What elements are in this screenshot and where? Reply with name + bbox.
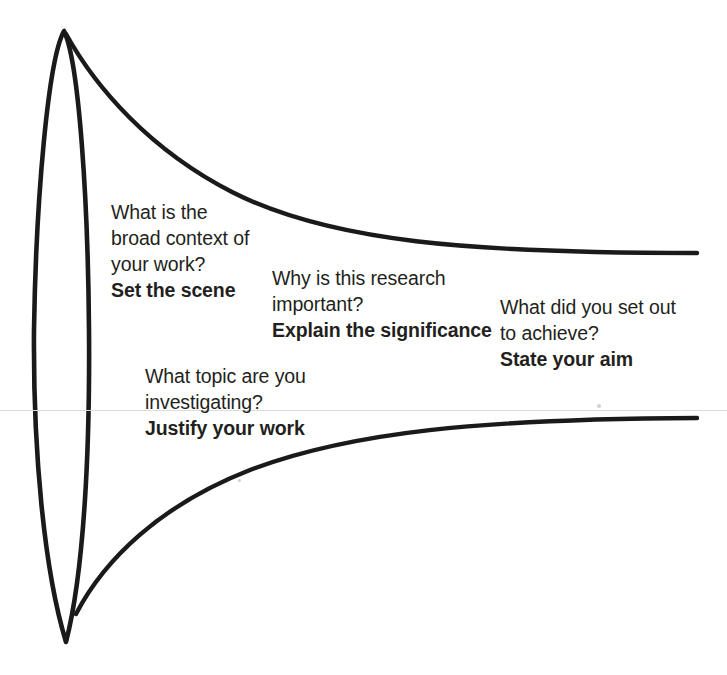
scan-speck (597, 404, 601, 408)
diagram-canvas: What is the broad context of your work? … (0, 0, 727, 675)
annotation-answer: State your aim (500, 346, 676, 372)
annotation-set-the-scene: What is the broad context of your work? … (111, 199, 249, 303)
annotation-answer: Justify your work (145, 415, 306, 441)
annotation-question-line: your work? (111, 251, 249, 277)
annotation-justify-your-work: What topic are you investigating? Justif… (145, 363, 306, 441)
annotation-answer: Explain the significance (272, 317, 492, 343)
annotation-question-line: broad context of (111, 225, 249, 251)
scan-artifact-line (0, 410, 727, 411)
annotation-answer: Set the scene (111, 277, 249, 303)
scan-speck (238, 479, 241, 482)
annotation-question-line: important? (272, 291, 492, 317)
annotation-question-line: Why is this research (272, 265, 492, 291)
annotation-question-line: to achieve? (500, 320, 676, 346)
annotation-state-your-aim: What did you set out to achieve? State y… (500, 294, 676, 372)
annotation-question-line: investigating? (145, 389, 306, 415)
annotation-question-line: What is the (111, 199, 249, 225)
annotation-explain-the-significance: Why is this research important? Explain … (272, 265, 492, 343)
annotation-question-line: What topic are you (145, 363, 306, 389)
annotation-question-line: What did you set out (500, 294, 676, 320)
lower-funnel-curve (76, 418, 697, 614)
vertical-lens-shape (34, 31, 89, 642)
